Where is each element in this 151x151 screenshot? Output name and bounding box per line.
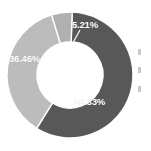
legend-item[interactable] — [138, 47, 151, 56]
legend-item[interactable] — [138, 66, 151, 75]
legend-swatch-icon — [138, 67, 141, 73]
legend-item[interactable] — [138, 84, 151, 93]
slice-label-36-46: 36.46% — [9, 54, 40, 64]
slice-label-58-33: 58.33% — [74, 97, 105, 107]
legend-swatch-icon — [138, 86, 141, 92]
slice-label-5-21: 5.21% — [72, 20, 98, 30]
legend — [138, 47, 151, 93]
donut-chart: 58.33% 36.46% 5.21% — [0, 0, 151, 151]
legend-swatch-icon — [138, 49, 141, 55]
